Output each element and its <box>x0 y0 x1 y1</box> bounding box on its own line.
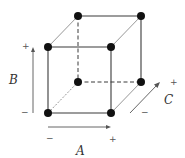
edge-top-right-depth <box>111 16 141 47</box>
depth-edges <box>48 16 141 113</box>
vertex-front-top-left <box>44 43 52 51</box>
vertex-back-bottom-right <box>137 78 145 86</box>
vertex-front-bottom-right <box>107 109 115 117</box>
axis-b-high-label: + <box>22 41 30 51</box>
vertex-back-bottom-left <box>74 78 82 86</box>
vertex-back-top-right <box>137 12 145 20</box>
edge-bottom-left-depth <box>48 82 78 113</box>
axis-b: + − B <box>8 41 35 117</box>
axis-b-arrowhead-icon <box>31 47 35 52</box>
axis-a-high-label: + <box>109 134 117 144</box>
vertex-front-top-right <box>107 43 115 51</box>
axis-c-low-label: − <box>141 107 149 117</box>
factorial-cube-diagram: + − B − + A + − C <box>0 0 185 158</box>
edge-bottom-right-depth <box>111 82 141 113</box>
axis-a: − + A <box>46 125 117 158</box>
axis-c-high-label: + <box>170 77 178 87</box>
vertex-back-top-left <box>74 12 82 20</box>
edge-top-left-depth <box>48 16 78 47</box>
axis-c-label: C <box>164 93 173 107</box>
vertex-front-bottom-left <box>44 109 52 117</box>
axis-a-arrowhead-icon <box>106 125 111 129</box>
axis-a-low-label: − <box>46 133 54 143</box>
axis-a-label: A <box>75 144 85 158</box>
axis-b-low-label: − <box>21 107 29 117</box>
axis-b-label: B <box>8 73 18 87</box>
